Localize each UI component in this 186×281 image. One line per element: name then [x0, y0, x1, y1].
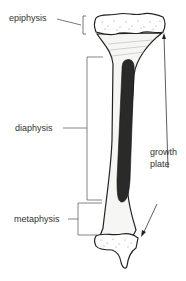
label-growth-plate-1: growth: [150, 147, 177, 158]
growth-plate-arrow-bottom: [143, 204, 157, 234]
diaphysis-bracket: [87, 57, 103, 200]
label-metaphysis: metaphysis: [14, 214, 60, 225]
label-diaphysis: diaphysis: [15, 123, 53, 134]
metaphysis-bracket: [78, 203, 102, 235]
epiphysis-cap: [95, 13, 165, 34]
arrowhead-bottom: [141, 230, 146, 237]
bone-diagram: [0, 0, 186, 281]
lower-epiphysis: [95, 234, 139, 268]
epiphysis-leader: [57, 19, 81, 25]
arrowhead-top: [162, 33, 166, 39]
label-growth-plate-2: plate: [150, 159, 170, 170]
label-epiphysis: epiphysis: [9, 13, 47, 24]
epiphysis-bracket: [83, 16, 86, 34]
